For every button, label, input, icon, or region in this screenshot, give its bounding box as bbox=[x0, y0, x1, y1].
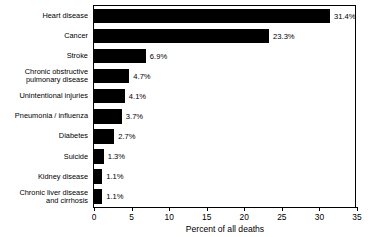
bar-category-label-line: Heart disease bbox=[42, 12, 88, 20]
bar bbox=[94, 129, 114, 144]
bar-value-label: 2.7% bbox=[118, 127, 135, 147]
bar-row: Chronic obstructivepulmonary disease4.7% bbox=[0, 66, 375, 86]
x-tick-label: 10 bbox=[154, 212, 184, 222]
bar bbox=[94, 149, 104, 164]
bar bbox=[94, 29, 269, 44]
bar bbox=[94, 89, 125, 104]
bar-value-label: 3.7% bbox=[126, 107, 143, 127]
bar-row: Unintentional injuries4.1% bbox=[0, 86, 375, 106]
bar bbox=[94, 9, 330, 24]
bar-category-label: Heart disease bbox=[0, 6, 88, 26]
bar-row: Cancer23.3% bbox=[0, 26, 375, 46]
x-tick-mark bbox=[244, 207, 245, 211]
bar bbox=[94, 189, 102, 204]
bar-rows: Heart disease31.4%Cancer23.3%Stroke6.9%C… bbox=[0, 6, 375, 207]
x-tick-mark bbox=[207, 207, 208, 211]
bar bbox=[94, 109, 122, 124]
bar-value-label: 1.1% bbox=[106, 167, 123, 187]
x-tick-label: 0 bbox=[79, 212, 109, 222]
x-tick-mark bbox=[282, 207, 283, 211]
bar-value-label: 6.9% bbox=[150, 46, 167, 66]
bar-category-label: Suicide bbox=[0, 147, 88, 167]
x-tick-mark bbox=[132, 207, 133, 211]
bar-row: Kidney disease1.1% bbox=[0, 167, 375, 187]
bar-category-label: Pneumonia / influenza bbox=[0, 107, 88, 127]
bar-row: Stroke6.9% bbox=[0, 46, 375, 66]
bar-row: Chronic liver diseaseand cirrhosis1.1% bbox=[0, 187, 375, 207]
bar-category-label: Diabetes bbox=[0, 127, 88, 147]
x-axis-title: Percent of all deaths bbox=[93, 224, 357, 234]
bar-value-label: 1.3% bbox=[108, 147, 125, 167]
x-tick-mark bbox=[169, 207, 170, 211]
bar-category-label-line: Unintentional injuries bbox=[19, 92, 88, 100]
x-tick-mark bbox=[357, 207, 358, 211]
x-tick-label: 5 bbox=[117, 212, 147, 222]
x-tick-label: 30 bbox=[304, 212, 334, 222]
bar-value-label: 23.3% bbox=[273, 26, 295, 46]
bar-category-label: Kidney disease bbox=[0, 167, 88, 187]
x-tick-label: 15 bbox=[192, 212, 222, 222]
bar-category-label-line: Pneumonia / influenza bbox=[15, 112, 88, 120]
bar-row: Pneumonia / influenza3.7% bbox=[0, 107, 375, 127]
bar-row: Diabetes2.7% bbox=[0, 127, 375, 147]
bar bbox=[94, 49, 146, 64]
bar-chart: Heart disease31.4%Cancer23.3%Stroke6.9%C… bbox=[0, 0, 375, 237]
bar-category-label-line: Kidney disease bbox=[38, 173, 88, 181]
bar-category-label: Chronic liver diseaseand cirrhosis bbox=[0, 187, 88, 207]
bar-category-label: Unintentional injuries bbox=[0, 86, 88, 106]
bar-value-label: 4.7% bbox=[133, 66, 150, 86]
bar-category-label-line: and cirrhosis bbox=[19, 197, 88, 205]
bar-value-label: 1.1% bbox=[106, 187, 123, 207]
x-tick-label: 25 bbox=[267, 212, 297, 222]
bar-category-label-line: Diabetes bbox=[59, 132, 88, 140]
bar-row: Heart disease31.4% bbox=[0, 6, 375, 26]
x-tick-label: 35 bbox=[342, 212, 372, 222]
bar bbox=[94, 69, 129, 84]
bar-category-label: Chronic obstructivepulmonary disease bbox=[0, 66, 88, 86]
bar-category-label-line: Stroke bbox=[67, 52, 88, 60]
bar-category-label: Cancer bbox=[0, 26, 88, 46]
x-tick-mark bbox=[319, 207, 320, 211]
bar-value-label: 31.4% bbox=[334, 6, 356, 26]
bar-value-label: 4.1% bbox=[129, 86, 146, 106]
bar-category-label: Stroke bbox=[0, 46, 88, 66]
bar-category-label-line: Suicide bbox=[64, 153, 88, 161]
bar-category-label-line: Cancer bbox=[64, 32, 88, 40]
x-tick-label: 20 bbox=[229, 212, 259, 222]
bar-row: Suicide1.3% bbox=[0, 147, 375, 167]
bar bbox=[94, 169, 102, 184]
bar-category-label-line: pulmonary disease bbox=[25, 76, 88, 84]
x-tick-mark bbox=[94, 207, 95, 211]
